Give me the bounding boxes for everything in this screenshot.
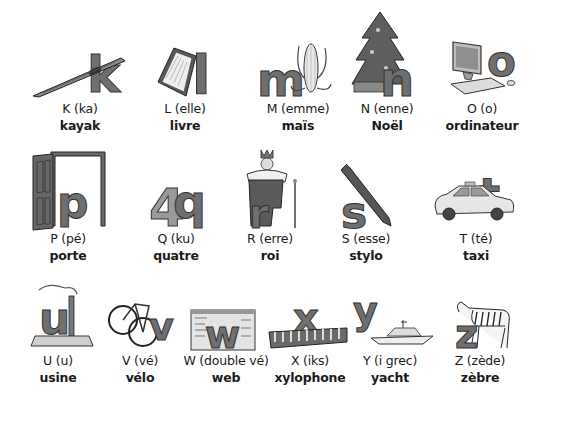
svg-text:s: s bbox=[341, 187, 367, 238]
svg-text:z: z bbox=[455, 311, 478, 357]
svg-text:r: r bbox=[249, 191, 269, 237]
svg-text:n: n bbox=[380, 51, 414, 107]
example-word: taxi bbox=[416, 247, 536, 264]
svg-text:q: q bbox=[173, 175, 206, 229]
door-icon: p bbox=[8, 148, 128, 230]
kayak-icon: k bbox=[20, 38, 140, 100]
alphabet-entry-t: t T (té) taxi bbox=[416, 148, 536, 264]
alphabet-entry-s: s S (esse) stylo bbox=[306, 148, 426, 264]
svg-text:p: p bbox=[57, 177, 89, 228]
svg-text:l: l bbox=[192, 44, 211, 107]
svg-text:o: o bbox=[487, 37, 516, 86]
alphabet-entry-k: k K (ka) kayak bbox=[20, 38, 140, 134]
example-word: ordinateur bbox=[422, 117, 542, 134]
zebra-icon: z bbox=[420, 282, 540, 352]
svg-text:w: w bbox=[205, 313, 240, 357]
example-word: livre bbox=[125, 117, 245, 134]
letter-name: Z (zède) bbox=[420, 352, 540, 369]
pen-icon: s bbox=[306, 148, 426, 230]
computer-icon: o bbox=[422, 38, 542, 100]
example-word: stylo bbox=[306, 247, 426, 264]
letter-name: L (elle) bbox=[125, 100, 245, 117]
book-icon: l bbox=[125, 38, 245, 100]
example-word: zèbre bbox=[420, 369, 540, 386]
letter-name: T (té) bbox=[416, 230, 536, 247]
alphabet-entry-z: z Z (zède) zèbre bbox=[420, 282, 540, 386]
letter-name: K (ka) bbox=[20, 100, 140, 117]
svg-text:y: y bbox=[353, 289, 378, 333]
alphabet-entry-l: l L (elle) livre bbox=[125, 38, 245, 134]
taxi-icon: t bbox=[416, 148, 536, 230]
letter-name: P (pé) bbox=[8, 230, 128, 247]
letter-name: O (o) bbox=[422, 100, 542, 117]
example-word: kayak bbox=[20, 117, 140, 134]
alphabet-entry-o: o O (o) ordinateur bbox=[422, 38, 542, 134]
alphabet-entry-p: p P (pé) porte bbox=[8, 148, 128, 264]
example-word: porte bbox=[8, 247, 128, 264]
